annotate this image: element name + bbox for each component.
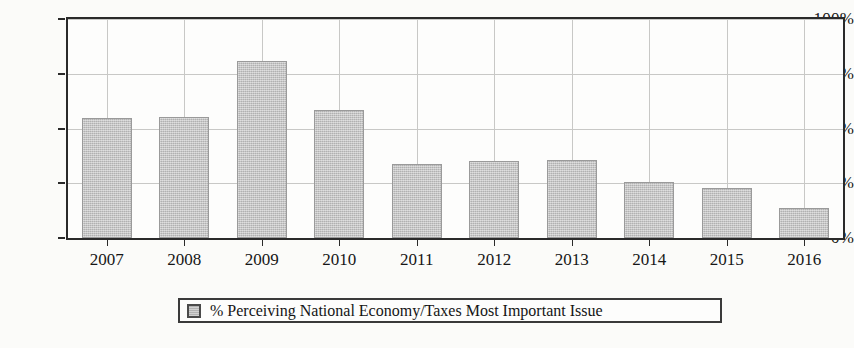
x-axis-tick-label-2012: 2012 (454, 250, 534, 269)
x-axis-tick-label-2010: 2010 (299, 250, 379, 269)
y-axis-tick-mark (58, 73, 65, 75)
x-axis-tick-label-2013: 2013 (532, 250, 612, 269)
legend-label: % Perceiving National Economy/Taxes Most… (210, 302, 603, 320)
bar-2014 (624, 182, 674, 238)
x-axis-tick-label-2016: 2016 (764, 250, 844, 269)
x-axis-tick-label-2014: 2014 (609, 250, 689, 269)
x-axis-tick-mark (804, 240, 805, 246)
bar-2016 (779, 208, 829, 238)
plot-area (68, 19, 843, 238)
y-axis-tick-mark (58, 128, 65, 130)
x-axis-tick-mark (184, 240, 185, 246)
bar-2008 (159, 117, 209, 239)
bar-2009 (237, 61, 287, 238)
plot-area-frame (66, 17, 845, 240)
y-axis-tick-mark (58, 237, 65, 239)
y-axis-tick-mark (58, 182, 65, 184)
x-axis-tick-mark (494, 240, 495, 246)
x-axis-tick-mark (649, 240, 650, 246)
x-axis-tick-label-2011: 2011 (377, 250, 457, 269)
x-axis-tick-label-2007: 2007 (67, 250, 147, 269)
x-axis-tick-label-2015: 2015 (687, 250, 767, 269)
y-axis-tick-mark (58, 18, 65, 20)
bar-2010 (314, 110, 364, 238)
bar-2015 (702, 188, 752, 238)
x-axis-tick-mark (572, 240, 573, 246)
chart-legend: % Perceiving National Economy/Taxes Most… (178, 298, 722, 323)
x-axis-tick-mark (262, 240, 263, 246)
gridline-vertical (804, 19, 805, 238)
x-axis-tick-mark (107, 240, 108, 246)
x-axis-tick-mark (339, 240, 340, 246)
bar-2007 (82, 118, 132, 239)
bar-chart-figure: 0%25%50%75%100% 200720082009201020112012… (0, 0, 854, 348)
legend-swatch-icon (187, 304, 201, 318)
x-axis-tick-mark (727, 240, 728, 246)
x-axis-tick-label-2009: 2009 (222, 250, 302, 269)
bar-2013 (547, 160, 597, 238)
bar-2011 (392, 164, 442, 239)
x-axis-tick-mark (417, 240, 418, 246)
x-axis-tick-label-2008: 2008 (144, 250, 224, 269)
bar-2012 (469, 161, 519, 238)
